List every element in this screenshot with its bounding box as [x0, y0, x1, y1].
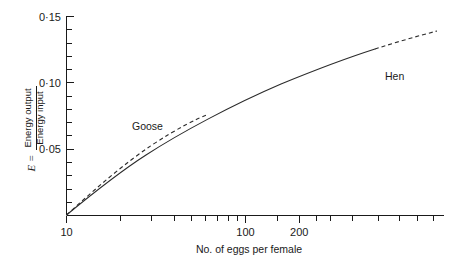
- y-axis-major-ticks: [67, 17, 75, 150]
- x-axis-title: No. of eggs per female: [196, 243, 302, 255]
- goose-label: Goose: [132, 120, 163, 132]
- x-axis-major-ticks: [67, 216, 300, 224]
- y-tick-label-0-10: 0·10: [39, 77, 61, 89]
- x-tick-label-200: 200: [290, 226, 308, 238]
- figure-container: 0·15 0·10 0·05 10: [0, 0, 451, 262]
- y-tick-label-0-15: 0·15: [39, 11, 61, 23]
- y-axis-title-denominator: Energy input: [34, 91, 45, 145]
- y-axis-title-numerator: Energy output: [22, 88, 33, 148]
- hen-curve: [67, 49, 376, 215]
- y-axis-title: E = Energy output Energy input: [22, 86, 45, 172]
- x-tick-label-100: 100: [236, 226, 254, 238]
- chart-plot: 0·15 0·10 0·05 10: [0, 0, 451, 262]
- y-axis-title-prefix: E =: [25, 155, 37, 173]
- x-tick-label-10: 10: [60, 226, 72, 238]
- hen-curve-extension: [375, 31, 437, 49]
- hen-label: Hen: [385, 70, 404, 82]
- x-axis-minor-ticks: [120, 216, 433, 221]
- y-axis-minor-ticks: [67, 30, 72, 203]
